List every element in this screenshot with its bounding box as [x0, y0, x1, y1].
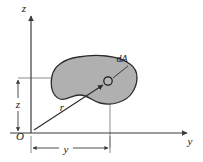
radius-label: r: [60, 101, 65, 113]
coordinate-diagram: z y O z y dA r: [0, 0, 203, 162]
area-element-point: [104, 77, 112, 85]
y-axis-label: y: [187, 135, 193, 147]
z-dimension-label: z: [15, 98, 21, 110]
origin-label: O: [16, 130, 24, 142]
area-element-label: dA: [116, 53, 128, 64]
figure-container: z y O z y dA r: [0, 0, 203, 162]
z-axis-label: z: [21, 2, 27, 14]
y-dimension-label: y: [63, 143, 69, 155]
